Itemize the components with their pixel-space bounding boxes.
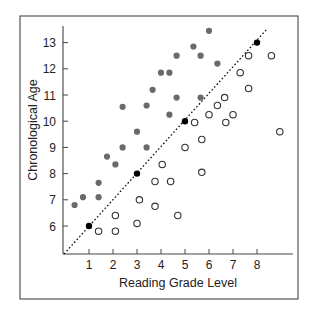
gray-point (144, 144, 150, 150)
scatter-chart: 678910111213 12345678 Reading Grade Leve… (0, 0, 314, 316)
open-point (112, 228, 118, 234)
open-point (134, 220, 140, 226)
open-point (175, 212, 181, 218)
open-point (223, 119, 229, 125)
open-point (277, 129, 283, 135)
x-tick-label: 4 (158, 258, 165, 272)
gray-point (214, 61, 220, 67)
open-point (191, 119, 197, 125)
y-tick-label: 9 (49, 141, 56, 155)
open-point (237, 70, 243, 76)
gray-point (150, 87, 156, 93)
black-point (254, 39, 260, 45)
gray-point (158, 70, 164, 76)
gray-point (120, 104, 126, 110)
chart-frame (20, 16, 298, 299)
gray-point (174, 95, 180, 101)
open-point (221, 94, 227, 100)
open-point (245, 53, 251, 59)
gray-point (198, 53, 204, 59)
open-point (152, 178, 158, 184)
gray-point (80, 194, 86, 200)
y-tick-label: 13 (43, 36, 57, 50)
y-tick-label: 8 (49, 167, 56, 181)
gray-point (206, 28, 212, 34)
x-axis-label: Reading Grade Level (119, 276, 237, 290)
gray-point (112, 161, 118, 167)
x-tick-label: 5 (182, 258, 189, 272)
x-tick-label: 7 (230, 258, 237, 272)
open-point (136, 197, 142, 203)
black-point (86, 223, 92, 229)
open-point (206, 112, 212, 118)
open-point (167, 178, 173, 184)
open-point (245, 85, 251, 91)
x-tick-label: 1 (86, 258, 93, 272)
open-point (182, 144, 188, 150)
open-point (95, 228, 101, 234)
open-point (152, 203, 158, 209)
gray-point (174, 53, 180, 59)
open-point (230, 112, 236, 118)
y-tick-label: 12 (43, 62, 57, 76)
black-point (134, 170, 140, 176)
gray-point (96, 180, 102, 186)
gray-point (104, 154, 110, 160)
gray-point (190, 43, 196, 49)
open-point (214, 102, 220, 108)
y-tick-label: 11 (44, 89, 57, 103)
y-axis-label: Chronological Age (26, 79, 40, 181)
y-tick-label: 7 (49, 193, 56, 207)
y-tick-label: 10 (43, 115, 57, 129)
gray-point (144, 102, 150, 108)
gray-point (166, 70, 172, 76)
gray-point (120, 144, 126, 150)
x-tick-label: 3 (134, 258, 141, 272)
gray-point (166, 112, 172, 118)
gray-point (134, 129, 140, 135)
open-point (112, 212, 118, 218)
open-point (159, 161, 165, 167)
black-point (182, 118, 188, 124)
x-tick-label: 6 (206, 258, 213, 272)
gray-point (198, 95, 204, 101)
open-point (199, 136, 205, 142)
x-tick-label: 8 (254, 258, 261, 272)
gray-point (72, 202, 78, 208)
y-tick-label: 6 (49, 220, 56, 234)
x-tick-label: 2 (110, 258, 117, 272)
open-point (268, 53, 274, 59)
open-point (199, 169, 205, 175)
gray-point (96, 194, 102, 200)
